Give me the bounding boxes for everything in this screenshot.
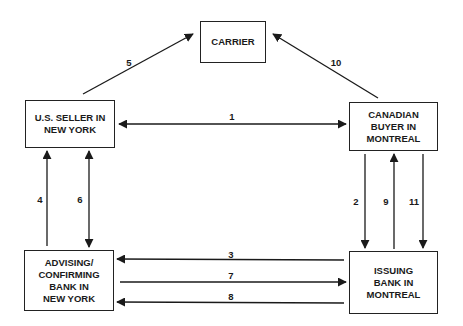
edge-label-9: 9	[383, 196, 388, 207]
edge-label-2: 2	[353, 196, 358, 207]
edge-label-3: 3	[228, 249, 233, 260]
edge-label-5: 5	[126, 57, 131, 68]
edge-label-7: 7	[228, 270, 233, 281]
node-carrier: CARRIER	[200, 21, 266, 63]
edge-label-8: 8	[228, 291, 233, 302]
arrow-5	[83, 34, 193, 94]
edge-label-1: 1	[229, 111, 234, 122]
arrow-10	[273, 34, 378, 98]
node-advising-confirming-bank: ADVISING/ CONFIRMING BANK IN NEW YORK	[24, 250, 114, 311]
edge-label-10: 10	[331, 57, 342, 68]
edge-label-11: 11	[409, 196, 419, 207]
edge-label-6: 6	[77, 194, 82, 205]
node-issuing-bank: ISSUING BANK IN MONTREAL	[349, 251, 438, 314]
node-us-seller: U.S. SELLER IN NEW YORK	[25, 100, 115, 148]
arrow-8	[117, 302, 344, 303]
edge-label-4: 4	[37, 194, 42, 205]
node-canadian-buyer: CANADIAN BUYER IN MONTREAL	[349, 102, 438, 151]
